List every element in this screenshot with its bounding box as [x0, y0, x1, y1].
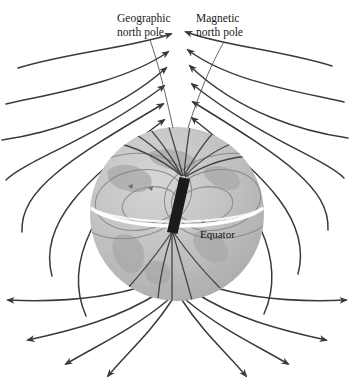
magnetic-pole-label-line2: north pole	[196, 26, 243, 39]
magnetic-pole-label-line1: Magnetic	[196, 12, 239, 25]
earth-magnetic-field-diagram: Equator Geographic north pole Magnetic n…	[0, 0, 350, 384]
geographic-pole-label-line2: north pole	[117, 26, 164, 39]
geographic-pole-label-line1: Geographic	[117, 12, 171, 25]
geographic-pole-leader	[150, 40, 173, 128]
magnetic-field-figure: Equator Geographic north pole Magnetic n…	[0, 0, 350, 384]
pole-labels: Geographic north pole Magnetic north pol…	[117, 12, 243, 39]
equator-label: Equator	[200, 228, 235, 240]
